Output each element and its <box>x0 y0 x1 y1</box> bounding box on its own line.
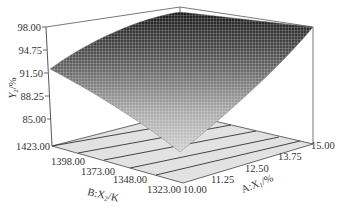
z-tick-label: 94.75 <box>18 45 42 56</box>
z-title-suffix: /% <box>7 77 18 89</box>
z-tick-label: 91.50 <box>19 68 43 79</box>
a-axis-title: A:X1/% <box>240 172 276 197</box>
svg-text:B:X2/K: B:X2/K <box>86 186 120 205</box>
response-surface <box>50 12 313 152</box>
a-tick-label: 15.00 <box>311 140 335 151</box>
b-tick-label: 1323.00 <box>147 184 181 195</box>
a-tick-label: 13.75 <box>278 151 302 162</box>
a-title-main: A:X <box>240 178 261 195</box>
b-tick-label: 1373.00 <box>81 166 115 177</box>
b-tick-label: 1348.00 <box>113 174 147 185</box>
a-title-suffix: /% <box>260 172 275 187</box>
svg-text:Y2/%: Y2/% <box>7 77 20 98</box>
a-tick-label: 11.25 <box>211 174 234 185</box>
b-axis-title: B:X2/K <box>86 186 120 205</box>
b-tick-label: 1423.00 <box>16 141 50 152</box>
z-axis-title: Y2/% <box>7 77 20 98</box>
z-tick-label: 88.25 <box>20 91 44 102</box>
response-surface-chart: 98.00 94.75 91.50 88.25 85.00 Y2/% 1423.… <box>0 0 343 208</box>
svg-text:A:X1/%: A:X1/% <box>240 172 276 197</box>
b-title-suffix: /K <box>107 191 120 204</box>
z-axis-line <box>46 27 52 146</box>
b-tick-label: 1398.00 <box>51 156 85 167</box>
z-tick-label: 98.00 <box>17 22 41 33</box>
a-tick-label: 10.00 <box>183 184 207 195</box>
z-tick-label: 85.00 <box>22 114 46 125</box>
a-tick-label: 12.50 <box>245 163 269 174</box>
